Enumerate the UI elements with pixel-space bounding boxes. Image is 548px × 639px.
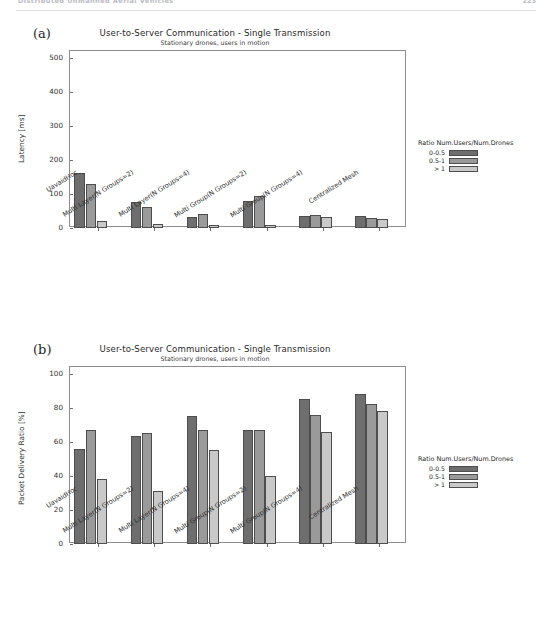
bar bbox=[310, 415, 321, 544]
x-tick-mark bbox=[323, 544, 324, 547]
plot-area bbox=[69, 50, 406, 227]
bar bbox=[377, 411, 388, 544]
legend-title: Ratio Num.Users/Num.Drones bbox=[418, 139, 513, 147]
bar bbox=[209, 450, 220, 544]
y-tick-mark bbox=[70, 544, 73, 545]
bar bbox=[142, 433, 153, 544]
legend-entry[interactable]: 0-0.5 bbox=[418, 149, 488, 157]
bar bbox=[187, 217, 198, 228]
legend-swatch bbox=[449, 166, 478, 172]
y-tick-mark bbox=[70, 194, 73, 195]
y-tick-mark bbox=[70, 476, 73, 477]
legend-entry-label: > 1 bbox=[418, 165, 445, 173]
legend-swatch bbox=[449, 474, 478, 480]
y-tick-label: 300 bbox=[49, 120, 63, 129]
legend-entry[interactable]: > 1 bbox=[418, 481, 488, 489]
y-tick-mark bbox=[70, 126, 73, 127]
legend-entry[interactable]: > 1 bbox=[418, 165, 488, 173]
legend-swatch bbox=[449, 158, 478, 164]
y-axis-label: Latency [ms] bbox=[17, 114, 26, 162]
y-tick-label: 60 bbox=[54, 436, 63, 445]
figure-panel-a: (a)User-to-Server Communication - Single… bbox=[0, 22, 548, 322]
bar bbox=[321, 432, 332, 544]
running-head-title: Distributed Unmanned Aerial Vehicles bbox=[18, 0, 174, 5]
bar bbox=[198, 430, 209, 544]
y-axis-label: Packet Delivery Ratio [%] bbox=[17, 411, 26, 505]
legend-swatch bbox=[449, 150, 478, 156]
bar bbox=[355, 216, 366, 228]
legend-swatch bbox=[449, 482, 478, 488]
legend-entry[interactable]: 0-0.5 bbox=[418, 465, 488, 473]
y-tick-label: 200 bbox=[49, 154, 63, 163]
y-tick-mark bbox=[70, 408, 73, 409]
y-tick-label: 80 bbox=[54, 402, 63, 411]
x-tick-mark bbox=[379, 228, 380, 231]
legend-entry-label: 0.5-1 bbox=[418, 157, 445, 165]
header-rule bbox=[16, 10, 536, 11]
bar bbox=[377, 219, 388, 228]
y-tick-label: 100 bbox=[49, 368, 63, 377]
y-tick-mark bbox=[70, 510, 73, 511]
legend-entry-label: 0-0.5 bbox=[418, 465, 445, 473]
chart-title: User-to-Server Communication - Single Tr… bbox=[0, 344, 430, 354]
legend-swatch bbox=[449, 466, 478, 472]
bar bbox=[299, 216, 310, 228]
bar bbox=[355, 394, 366, 544]
bar bbox=[321, 217, 332, 228]
legend-entry[interactable]: 0.5-1 bbox=[418, 157, 488, 165]
x-tick-mark bbox=[323, 228, 324, 231]
document-page: Distributed Unmanned Aerial Vehicles 223… bbox=[0, 0, 548, 639]
y-tick-label: 40 bbox=[54, 470, 63, 479]
bar bbox=[254, 430, 265, 544]
legend-entry[interactable]: 0.5-1 bbox=[418, 473, 488, 481]
legend-title: Ratio Num.Users/Num.Drones bbox=[418, 455, 513, 463]
y-tick-mark bbox=[70, 92, 73, 93]
y-tick-mark bbox=[70, 374, 73, 375]
y-tick-label: 0 bbox=[58, 539, 63, 548]
y-tick-mark bbox=[70, 228, 73, 229]
y-tick-mark bbox=[70, 442, 73, 443]
bar bbox=[366, 404, 377, 544]
legend-entry-label: 0-0.5 bbox=[418, 149, 445, 157]
legend-entry-label: 0.5-1 bbox=[418, 473, 445, 481]
bar bbox=[310, 215, 321, 228]
y-tick-mark bbox=[70, 58, 73, 59]
plot-area bbox=[69, 366, 406, 543]
y-tick-label: 400 bbox=[49, 86, 63, 95]
chart-subtitle: Stationary drones, users in motion bbox=[0, 355, 430, 362]
bar bbox=[74, 449, 85, 544]
page-number: 223 bbox=[522, 0, 536, 5]
legend-entry-label: > 1 bbox=[418, 481, 445, 489]
bar bbox=[86, 430, 97, 544]
y-tick-label: 0 bbox=[58, 223, 63, 232]
y-tick-mark bbox=[70, 160, 73, 161]
bar bbox=[366, 218, 377, 228]
figure-panel-b: (b)User-to-Server Communication - Single… bbox=[0, 338, 548, 633]
x-tick-mark bbox=[379, 544, 380, 547]
chart-title: User-to-Server Communication - Single Tr… bbox=[0, 28, 430, 38]
chart-subtitle: Stationary drones, users in motion bbox=[0, 39, 430, 46]
bar bbox=[142, 207, 153, 228]
y-tick-label: 500 bbox=[49, 52, 63, 61]
